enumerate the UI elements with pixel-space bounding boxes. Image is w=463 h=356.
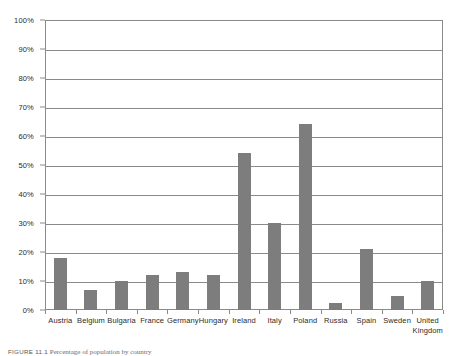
x-axis-tick-mark <box>351 310 352 314</box>
x-axis-tick-label: Ireland <box>232 316 256 326</box>
bar <box>207 275 220 310</box>
bar <box>268 223 281 310</box>
bar <box>238 153 251 310</box>
figure-caption-text: Percentage of population by country <box>50 348 152 356</box>
x-axis-tick-label: Sweden <box>383 316 411 326</box>
bar <box>146 275 159 310</box>
x-axis-tick-mark <box>167 310 168 314</box>
bar <box>115 281 128 310</box>
y-axis-tick-label: 10% <box>18 277 34 286</box>
x-axis-tick-mark <box>290 310 291 314</box>
y-axis-tick-label: 90% <box>18 45 34 54</box>
x-axis-tick-mark <box>76 310 77 314</box>
bar <box>84 290 97 310</box>
x-axis-tick-label: Italy <box>267 316 281 326</box>
y-axis-tick-label: 100% <box>14 16 34 25</box>
x-axis-tick-mark <box>259 310 260 314</box>
x-axis-tick-label: Bulgaria <box>107 316 135 326</box>
x-axis-tick-mark <box>443 310 444 314</box>
bar <box>54 258 67 310</box>
x-axis-tick-label: Belgium <box>77 316 105 326</box>
x-axis-tick-label: Russia <box>324 316 348 326</box>
bar <box>360 249 373 310</box>
x-axis-tick-label: France <box>140 316 164 326</box>
x-axis-tick-mark <box>412 310 413 314</box>
x-axis-tick-mark <box>382 310 383 314</box>
x-axis-tick-label: Germany <box>167 316 199 326</box>
bar-chart-figure: 0%10%20%30%40%50%60%70%80%90%100% Austri… <box>0 0 463 356</box>
x-axis-tick-label: UnitedKingdom <box>413 316 443 335</box>
x-axis-tick-mark <box>106 310 107 314</box>
x-axis-tick-mark <box>45 310 46 314</box>
y-axis-tick-label: 40% <box>18 190 34 199</box>
y-axis-tick-label: 80% <box>18 74 34 83</box>
bar <box>421 281 434 310</box>
y-axis-tick-label: 70% <box>18 103 34 112</box>
bar <box>329 303 342 310</box>
bar <box>299 124 312 310</box>
figure-caption: FIGURE 11.1 Percentage of population by … <box>8 347 448 356</box>
bar <box>176 272 189 310</box>
x-axis-tick-label: Spain <box>357 316 377 326</box>
figure-number: FIGURE 11.1 <box>8 348 48 355</box>
y-axis-tick-label: 30% <box>18 219 34 228</box>
y-axis-tick-label: 50% <box>18 161 34 170</box>
x-axis-tick-mark <box>137 310 138 314</box>
x-axis-tick-mark <box>198 310 199 314</box>
x-axis-tick-label: Poland <box>293 316 317 326</box>
y-axis-tick-label: 0% <box>23 306 34 315</box>
x-axis-tick-label: Hungary <box>199 316 228 326</box>
y-axis: 0%10%20%30%40%50%60%70%80%90%100% <box>0 0 42 356</box>
y-axis-tick-label: 60% <box>18 132 34 141</box>
x-axis-tick-mark <box>321 310 322 314</box>
x-axis-tick-mark <box>229 310 230 314</box>
bar <box>391 296 404 311</box>
bars-layer <box>45 20 443 310</box>
x-axis-tick-label: Austria <box>48 316 72 326</box>
y-axis-tick-label: 20% <box>18 248 34 257</box>
